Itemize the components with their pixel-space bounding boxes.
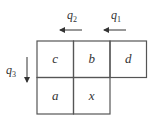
arrow-q3-label: q3: [6, 63, 16, 79]
grid-diagram: cbdax q2 q1 q3: [0, 0, 154, 118]
arrow-q1-label: q1: [111, 8, 121, 24]
arrow-q2: q2: [60, 8, 82, 30]
cell-a: a: [37, 78, 74, 115]
cell-d: d: [110, 41, 147, 78]
arrow-q3: q3: [6, 57, 27, 82]
cell-label: b: [89, 51, 96, 66]
cell-label: d: [125, 51, 132, 66]
cells-group: cbdax: [37, 41, 147, 114]
arrow-q1: q1: [104, 8, 126, 30]
arrow-q2-label: q2: [67, 8, 77, 24]
cell-b: b: [74, 41, 111, 78]
cell-label: c: [52, 51, 58, 66]
cell-label: x: [88, 88, 95, 103]
cell-x: x: [74, 78, 111, 115]
cell-c: c: [37, 41, 74, 78]
cell-label: a: [52, 88, 59, 103]
